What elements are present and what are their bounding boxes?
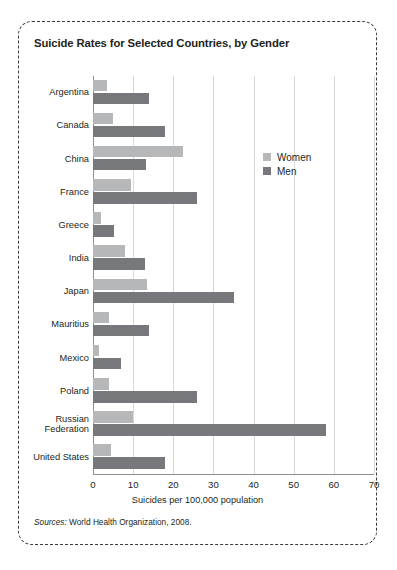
bar-group <box>93 375 374 408</box>
bar-men <box>93 126 165 138</box>
bar-group <box>93 408 374 441</box>
bar-women <box>93 378 109 390</box>
bar-women <box>93 113 113 125</box>
bar-men <box>93 225 114 237</box>
country-label: Mauritius <box>23 319 89 330</box>
bar-men <box>93 292 234 304</box>
x-tick-label-60: 60 <box>319 479 349 490</box>
bar-women <box>93 444 111 456</box>
bar-women <box>93 345 99 357</box>
bar-group <box>93 142 374 175</box>
country-label: RussianFederation <box>23 414 89 435</box>
bar-women <box>93 312 109 324</box>
bar-women <box>93 411 133 423</box>
bar-group <box>93 341 374 374</box>
x-tick-label-50: 50 <box>279 479 309 490</box>
x-tick-label-20: 20 <box>158 479 188 490</box>
x-tick-label-40: 40 <box>239 479 269 490</box>
bar-men <box>93 325 149 337</box>
gridline-70 <box>374 76 375 474</box>
country-label: United States <box>23 452 89 463</box>
country-label: China <box>23 154 89 165</box>
bar-men <box>93 424 326 436</box>
bar-group <box>93 275 374 308</box>
country-label: Argentina <box>23 87 89 98</box>
source-note: Sources: World Health Organization, 2008… <box>34 517 192 527</box>
country-label: Greece <box>23 220 89 231</box>
bar-group <box>93 308 374 341</box>
bar-men <box>93 159 146 171</box>
legend-swatch-icon <box>263 167 271 175</box>
country-label: Poland <box>23 386 89 397</box>
bar-women <box>93 245 125 257</box>
bar-women <box>93 212 101 224</box>
bar-group <box>93 441 374 474</box>
country-label: Mexico <box>23 353 89 364</box>
source-note-text: World Health Organization, 2008. <box>67 517 192 527</box>
figure-card: Suicide Rates for Selected Countries, by… <box>18 21 377 545</box>
bar-group <box>93 176 374 209</box>
x-axis-baseline <box>93 474 374 475</box>
bar-women <box>93 146 183 158</box>
country-label: India <box>23 253 89 264</box>
bar-men <box>93 457 165 469</box>
bar-group <box>93 242 374 275</box>
legend-label: Men <box>277 166 296 177</box>
x-tick-label-0: 0 <box>78 479 108 490</box>
x-tick-label-30: 30 <box>198 479 228 490</box>
x-tick-label-10: 10 <box>118 479 148 490</box>
bar-men <box>93 391 197 403</box>
legend-item-women: Women <box>263 150 311 164</box>
page-title: Suicide Rates for Selected Countries, by… <box>34 37 289 49</box>
legend-label: Women <box>277 152 311 163</box>
bar-men <box>93 358 121 370</box>
bar-men <box>93 258 145 270</box>
bar-group <box>93 109 374 142</box>
legend-swatch-icon <box>263 153 271 161</box>
country-label: Japan <box>23 286 89 297</box>
bar-women <box>93 279 147 291</box>
legend: WomenMen <box>263 150 311 178</box>
bar-men <box>93 93 149 105</box>
plot-area <box>93 76 374 474</box>
country-label: Canada <box>23 120 89 131</box>
country-label: France <box>23 187 89 198</box>
legend-item-men: Men <box>263 164 311 178</box>
x-axis-title: Suicides per 100,000 population <box>19 495 376 505</box>
source-note-lead: Sources: <box>34 517 67 527</box>
bar-group <box>93 76 374 109</box>
bar-men <box>93 192 197 204</box>
x-tick-label-70: 70 <box>359 479 389 490</box>
bar-women <box>93 179 131 191</box>
bar-group <box>93 209 374 242</box>
bar-women <box>93 80 107 92</box>
